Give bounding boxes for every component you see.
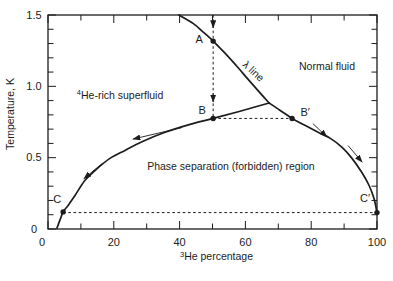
y-tick-label-1.0: 1.0 [26, 80, 41, 92]
flow-left-lower-arrow [84, 164, 102, 179]
x-tick-label-0: 0 [39, 236, 45, 248]
phase-diagram-svg: 02040608010000.51.01.5ABB′CC′4He-rich su… [0, 0, 393, 281]
point-C [60, 209, 65, 214]
point-C′ [374, 210, 379, 215]
x-tick-label-60: 60 [239, 236, 251, 248]
lambda-line-label: λ line [241, 58, 267, 84]
forbidden-region-label: Phase separation (forbidden) region [147, 160, 315, 172]
x-axis-title: 3He percentage [180, 250, 253, 263]
point-B′ [289, 116, 294, 121]
point-label-B: B [198, 104, 205, 116]
point-B [210, 116, 215, 121]
point-label-B′: B′ [300, 106, 309, 118]
flow-left-upper-arrow [133, 128, 182, 140]
superfluid-region-label: 4He-rich superfluid [77, 88, 164, 101]
point-A [210, 38, 215, 43]
y-tick-label-1.5: 1.5 [26, 9, 41, 21]
point-label-C: C [53, 193, 61, 205]
x-tick-label-80: 80 [305, 236, 317, 248]
x-tick-label-20: 20 [108, 236, 120, 248]
helium-phase-diagram: 02040608010000.51.01.5ABB′CC′4He-rich su… [0, 0, 393, 281]
x-tick-label-100: 100 [368, 236, 386, 248]
normal-fluid-region-label: Normal fluid [299, 60, 355, 72]
y-tick-label-0.5: 0.5 [26, 151, 41, 163]
lambda-line-curve [179, 15, 269, 103]
flow-right-lower-arrow [348, 146, 362, 163]
point-label-A: A [195, 33, 203, 45]
y-axis-title: Temperature, K [4, 78, 16, 150]
plot-border [48, 15, 377, 229]
x-tick-label-40: 40 [173, 236, 185, 248]
point-label-C′: C′ [360, 192, 370, 204]
y-tick-label-0: 0 [31, 223, 37, 235]
